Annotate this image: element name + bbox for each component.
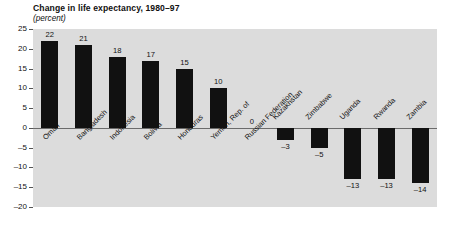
y-axis-tick-label: –10 [14,162,27,171]
bar-value-label: 22 [33,30,67,39]
y-axis-tick-mark [29,49,33,50]
bar [344,128,361,179]
bar-value-label: 10 [201,77,235,86]
y-axis-tick: –5 [0,148,33,149]
bar [412,128,429,183]
y-axis-tick: –15 [0,187,33,188]
y-axis-tick: 10 [0,88,33,89]
bar [75,45,92,128]
y-axis-tick-label: 15 [18,64,27,73]
y-axis-tick-mark [29,148,33,149]
y-axis-tick-label: –20 [14,202,27,211]
y-axis-tick: 25 [0,29,33,30]
chart-subtitle: (percent) [33,14,433,24]
y-axis-tick-mark [29,88,33,89]
y-axis-tick-mark [29,187,33,188]
bar-value-label: –3 [269,142,303,151]
bar [277,128,294,140]
y-axis-tick-label: 10 [18,83,27,92]
chart-title-block: Change in life expectancy, 1980–97 (perc… [33,3,433,24]
bar [41,41,58,128]
chart-figure: Change in life expectancy, 1980–97 (perc… [0,0,450,233]
bar-value-label: 21 [67,34,101,43]
bar-value-label: 18 [100,46,134,55]
y-axis-tick-mark [29,108,33,109]
chart-title: Change in life expectancy, 1980–97 [33,3,433,14]
y-axis-tick: 0 [0,128,33,129]
y-axis-tick-label: –5 [18,143,27,152]
bar-value-label: –13 [370,181,404,190]
y-axis-tick: 15 [0,69,33,70]
y-axis-tick-label: 0 [23,123,27,132]
y-axis-tick-label: 25 [18,24,27,33]
y-axis-tick-mark [29,207,33,208]
y-axis-tick-label: –15 [14,182,27,191]
y-axis-tick-mark [29,69,33,70]
bar-value-label: –13 [336,181,370,190]
bar-value-label: 17 [134,50,168,59]
bar-value-label: –14 [403,185,437,194]
y-axis-tick: 20 [0,49,33,50]
y-axis-tick-mark [29,167,33,168]
y-axis-tick: –20 [0,207,33,208]
bar [109,57,126,128]
bar [142,61,159,128]
bar [311,128,328,148]
bar [378,128,395,179]
y-axis-tick-label: 20 [18,44,27,53]
bar-value-label: –5 [302,150,336,159]
y-axis-tick: –10 [0,167,33,168]
y-axis-tick: 5 [0,108,33,109]
y-axis-tick-mark [29,128,33,129]
bar-value-label: 15 [168,58,202,67]
source-note [26,226,326,231]
y-axis-tick-label: 5 [23,103,27,112]
